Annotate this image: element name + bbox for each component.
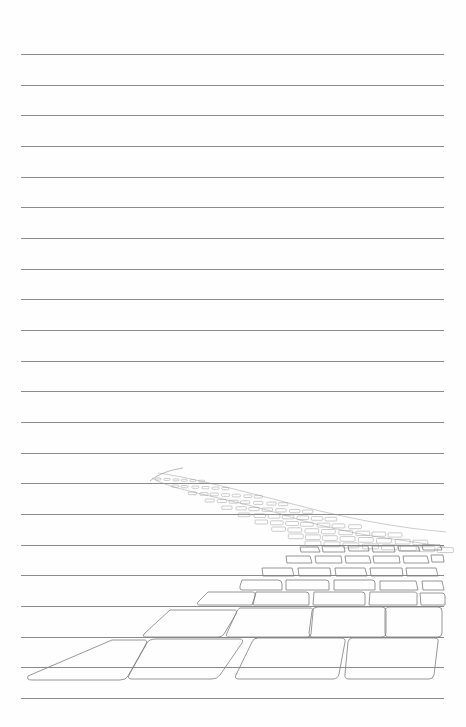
lined-paper-page: sketched cobblestone brick road receding… — [0, 0, 466, 727]
brick-road-drawing — [28, 468, 454, 680]
ruled-lines — [21, 55, 444, 699]
near-brick-rows — [28, 607, 443, 680]
page-artwork — [0, 0, 466, 727]
